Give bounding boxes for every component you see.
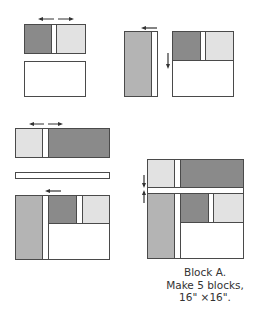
white-rectangle [180,222,244,259]
press-arrow-down-icon [165,53,171,69]
press-arrow-outward-icon [29,121,63,127]
white-sashing-strip [151,31,158,97]
dark-square [180,193,209,223]
light-square [82,195,110,224]
light-square [15,128,43,158]
light-square [56,24,86,54]
dark-long-rectangle [180,159,244,188]
white-rectangle [24,61,86,97]
block-caption: Block A. Make 5 blocks, 16" ×16". [160,266,250,304]
long-white-strip [15,172,110,179]
dark-long-rectangle [48,128,110,158]
press-arrow-outward-icon [38,16,74,22]
light-square [213,193,244,223]
white-rectangle [172,60,234,97]
medium-tall-rectangle [147,193,175,259]
medium-tall-rectangle [15,195,43,260]
dark-square [172,31,201,61]
caption-quantity: Make 5 blocks, [160,279,250,292]
caption-title: Block A. [160,266,250,279]
caption-size: 16" ×16". [160,291,250,304]
dark-square [48,195,77,224]
dark-square [24,24,52,54]
light-square [205,31,234,61]
press-arrow-left-icon [45,188,61,194]
light-square [147,159,175,188]
white-rectangle [48,223,110,260]
medium-tall-rectangle [124,31,152,97]
